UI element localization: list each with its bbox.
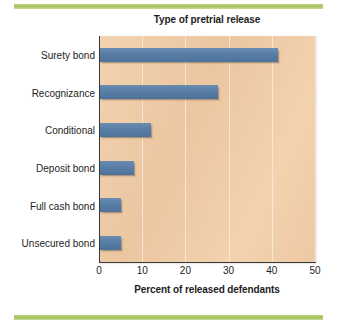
bar-row	[99, 187, 315, 225]
bar	[99, 236, 121, 250]
category-label: Recognizance	[2, 87, 95, 98]
category-label: Unsecured bond	[2, 238, 95, 249]
chart-title: Type of pretrial release	[99, 14, 315, 25]
x-tick-label: 40	[266, 265, 277, 276]
category-label: Conditional	[2, 125, 95, 136]
x-tick-label: 0	[96, 265, 102, 276]
bar	[99, 48, 278, 62]
y-axis-line	[99, 36, 100, 263]
category-label: Deposit bond	[2, 162, 95, 173]
bar-series	[99, 36, 315, 262]
x-tick-label: 50	[309, 265, 320, 276]
bar	[99, 198, 121, 212]
category-axis-labels: Surety bondRecognizanceConditionalDeposi…	[0, 36, 95, 262]
bar-row	[99, 111, 315, 149]
bar	[99, 85, 218, 99]
x-tick-label: 10	[137, 265, 148, 276]
x-axis-tick-labels: 01020304050	[99, 265, 315, 279]
category-label: Surety bond	[2, 49, 95, 60]
bar-row	[99, 224, 315, 262]
category-label: Full cash bond	[2, 200, 95, 211]
bar-chart-figure: Type of pretrial release Surety bondReco…	[0, 12, 337, 312]
bar-row	[99, 149, 315, 187]
bar	[99, 161, 134, 175]
x-tick-label: 20	[180, 265, 191, 276]
bar-row	[99, 36, 315, 74]
x-axis-line	[99, 262, 316, 263]
plot-area	[99, 36, 315, 262]
bottom-green-rule	[14, 315, 323, 320]
top-green-rule	[14, 4, 323, 9]
x-tick-label: 30	[223, 265, 234, 276]
x-axis-title: Percent of released defendants	[99, 284, 315, 295]
gridline	[315, 36, 316, 262]
bar	[99, 123, 151, 137]
bar-row	[99, 74, 315, 112]
